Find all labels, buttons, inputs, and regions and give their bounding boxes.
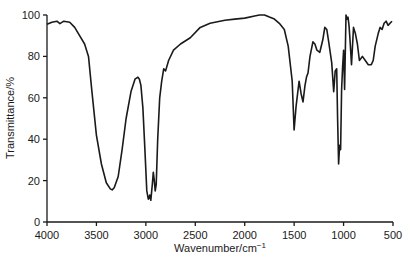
x-tick-label: 3500 [84, 229, 108, 241]
x-tick-label: 1000 [331, 229, 355, 241]
x-axis-label-text: Wavenumber/cm [174, 242, 257, 254]
x-axis: 4000350030002500200015001000500 [35, 222, 402, 241]
y-axis: 020406080100 [22, 9, 47, 228]
x-tick-label: 4000 [35, 229, 59, 241]
y-axis-label: Transmittance/% [4, 77, 16, 159]
x-tick-label: 3000 [134, 229, 158, 241]
x-axis-label-superscript: −1 [257, 241, 267, 250]
spectrum-line [47, 15, 392, 200]
y-tick-label: 0 [34, 216, 40, 228]
y-tick-label: 100 [22, 9, 40, 21]
x-axis-label: Wavenumber/cm−1 [174, 241, 266, 254]
y-tick-label: 40 [28, 133, 40, 145]
y-tick-label: 80 [28, 50, 40, 62]
x-tick-label: 2500 [183, 229, 207, 241]
x-tick-label: 500 [384, 229, 402, 241]
ir-spectrum-chart: 020406080100 400035003000250020001500100… [0, 0, 410, 259]
x-tick-label: 2000 [232, 229, 256, 241]
x-tick-label: 1500 [282, 229, 306, 241]
y-tick-label: 20 [28, 175, 40, 187]
y-tick-label: 60 [28, 92, 40, 104]
